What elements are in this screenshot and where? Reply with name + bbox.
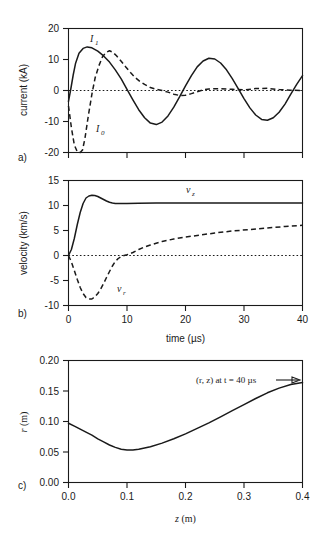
svg-text:I: I — [95, 123, 100, 134]
panel-b-xlabel: time (µs) — [166, 333, 205, 344]
panel-c-frame — [69, 361, 303, 483]
panel-c-annotation-arrow — [276, 377, 300, 383]
panel-b-ytick-0: 0 — [53, 250, 59, 261]
panel-a-ytick-neg20: -20 — [45, 147, 60, 158]
panel-c-ylabel: r (m) — [18, 412, 30, 433]
panel-b-label: b) — [18, 308, 27, 319]
panel-b-curve-vz — [69, 195, 303, 255]
panel-c-ytick-015: 0.15 — [40, 386, 60, 397]
panel-b-series-label-vr: v r — [117, 283, 126, 297]
panel-a-ytick-0: 0 — [53, 85, 59, 96]
figure-container: a) 20 10 0 -10 -20 — [0, 0, 324, 553]
panel-a-y-ticks — [63, 29, 69, 153]
panel-b-ytick-neg10: -10 — [45, 300, 60, 311]
panel-c: c) 0.20 0.15 0.10 0.05 0.00 0.0 — [0, 352, 324, 553]
panel-c-curve-trajectory — [69, 383, 303, 450]
panel-c-xtick-00: 0.0 — [62, 491, 76, 502]
svg-text:1: 1 — [95, 39, 99, 47]
panel-b-ytick-neg5: -5 — [50, 275, 59, 286]
panel-b-series-label-vz: v z — [186, 184, 195, 198]
svg-text:r: r — [123, 289, 126, 297]
panel-a-ylabel: current (kA) — [18, 64, 29, 116]
panel-c-label: c) — [18, 480, 26, 491]
svg-text:0: 0 — [101, 129, 105, 137]
panel-c-ytick-020: 0.20 — [40, 355, 60, 366]
panel-a-series-label-i0: I 0 — [95, 123, 105, 137]
panel-c-plot: 0.20 0.15 0.10 0.05 0.00 0.0 0.1 0.2 0.3… — [0, 352, 324, 553]
panel-b: b) 15 10 5 0 -5 -10 — [0, 170, 324, 350]
panel-b-ytick-5: 5 — [53, 225, 59, 236]
panel-c-annotation: (r, z) at t = 40 µs — [196, 375, 257, 385]
panel-c-ytick-005: 0.05 — [40, 447, 60, 458]
panel-a-label: a) — [18, 152, 27, 163]
panel-b-xtick-20: 20 — [180, 314, 192, 325]
svg-text:I: I — [89, 33, 94, 44]
panel-a-ytick-20: 20 — [48, 23, 60, 34]
panel-b-x-ticks — [69, 306, 303, 312]
panel-b-curve-vr — [69, 225, 303, 299]
panel-c-ytick-000: 0.00 — [40, 477, 60, 488]
panel-c-xtick-02: 0.2 — [179, 491, 193, 502]
svg-text:v: v — [186, 184, 191, 195]
panel-c-xtick-04: 0.4 — [296, 491, 310, 502]
panel-b-xtick-30: 30 — [238, 314, 250, 325]
panel-b-y-ticks — [63, 181, 69, 306]
panel-a-series-label-i1: I 1 — [89, 33, 99, 47]
panel-b-ylabel: velocity (km/s) — [18, 211, 29, 275]
panel-b-ytick-15: 15 — [48, 175, 60, 186]
panel-c-y-ticks — [63, 361, 69, 483]
panel-a: a) 20 10 0 -10 -20 — [0, 0, 324, 175]
panel-a-ytick-neg10: -10 — [45, 116, 60, 127]
panel-c-xlabel: z (m) — [174, 513, 196, 525]
panel-b-xtick-40: 40 — [297, 314, 309, 325]
panel-b-xtick-0: 0 — [66, 314, 72, 325]
panel-a-plot: 20 10 0 -10 -20 I 1 — [0, 0, 324, 175]
panel-a-curve-i0 — [69, 51, 303, 153]
svg-text:z: z — [191, 190, 195, 198]
panel-c-xtick-01: 0.1 — [120, 491, 134, 502]
panel-b-ytick-10: 10 — [48, 200, 60, 211]
svg-text:v: v — [117, 283, 122, 294]
panel-c-ytick-010: 0.10 — [40, 416, 60, 427]
panel-c-xtick-03: 0.3 — [237, 491, 251, 502]
panel-c-x-ticks — [69, 483, 303, 489]
panel-a-curve-i1 — [69, 47, 303, 125]
panel-b-xtick-10: 10 — [121, 314, 133, 325]
panel-b-plot: 15 10 5 0 -5 -10 0 10 20 30 40 — [0, 170, 324, 350]
panel-a-x-ticks — [69, 153, 303, 159]
panel-a-ytick-10: 10 — [48, 54, 60, 65]
